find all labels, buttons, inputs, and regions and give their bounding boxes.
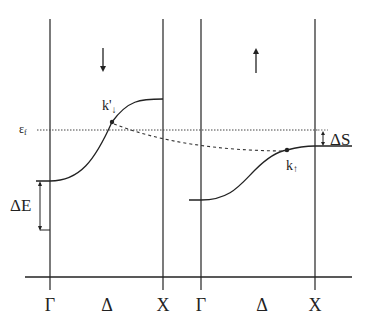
left-x-label: X (157, 295, 170, 315)
delta-s-arrow (318, 130, 328, 146)
right-gamma-label: Γ (196, 295, 206, 315)
spin-up-band (189, 146, 352, 200)
fermi-level-label: εf (19, 122, 27, 137)
right-delta-label: Δ (256, 295, 268, 315)
band-structure-diagram: εf ΔE ΔS k'↓ k↑ Γ Δ X Γ Δ X (0, 0, 365, 324)
delta-e-arrow (38, 181, 50, 231)
k-up-label: k↑ (286, 158, 298, 174)
delta-e-label: ΔE (10, 196, 31, 215)
delta-s-label: ΔS (330, 130, 350, 149)
left-gamma-label: Γ (45, 295, 55, 315)
spin-down-band (36, 99, 163, 181)
k-up-point (285, 148, 289, 152)
spin-down-arrow-icon (100, 48, 106, 72)
left-delta-label: Δ (101, 295, 113, 315)
k-prime-down-label: k'↓ (102, 98, 117, 115)
spin-up-arrow-icon (253, 48, 259, 73)
right-x-label: X (309, 295, 322, 315)
k-prime-down-point (110, 120, 114, 124)
